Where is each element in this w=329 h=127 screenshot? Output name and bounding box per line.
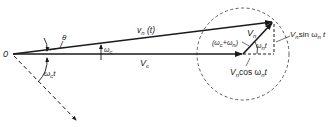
phasor-diagram: 0 θ ωc ωct vn (t) Vc Vn (ωc+ωn) ωnt Vnsi…	[0, 0, 329, 127]
vn-sin-label: Vnsin ωn t	[290, 30, 326, 40]
sum-frequency-label: (ωc+ωn)	[212, 39, 238, 48]
origin-label: 0	[3, 49, 8, 59]
vn-label: Vn	[247, 28, 257, 39]
vn-t-label: vn (t)	[137, 25, 155, 36]
sin-label-leader	[276, 36, 290, 42]
theta-label: θ	[62, 33, 67, 42]
resultant-phasor-vn-t	[13, 22, 272, 54]
reference-dashed-line	[14, 56, 76, 120]
sum-freq-leader	[242, 42, 249, 46]
omega-c-t-label: ωct	[44, 69, 56, 79]
theta-arc	[44, 38, 47, 51]
vn-cos-label: Vncos ωnt	[230, 67, 268, 78]
vc-label: Vc	[140, 58, 149, 69]
cos-label-leader	[246, 58, 250, 66]
